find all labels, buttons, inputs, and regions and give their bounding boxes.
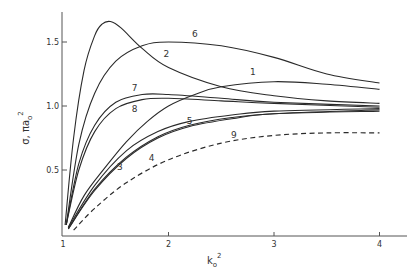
chart: 12340.51.01.5 123456789 ko2 σ, πao2 bbox=[0, 0, 420, 278]
curve-4 bbox=[68, 111, 379, 229]
curve-label-5: 5 bbox=[187, 116, 193, 126]
curve-7 bbox=[66, 94, 379, 225]
curve-8 bbox=[66, 98, 379, 225]
curve-6 bbox=[66, 42, 379, 225]
y-axis-title-base: σ, πa bbox=[20, 120, 31, 145]
x-tick-label: 4 bbox=[377, 240, 382, 249]
x-axis-title-superscript: 2 bbox=[217, 252, 221, 260]
curve-label-6: 6 bbox=[192, 29, 198, 39]
curve-9 bbox=[74, 133, 380, 230]
curve-label-7: 7 bbox=[132, 83, 138, 93]
x-tick-label: 1 bbox=[60, 240, 65, 249]
y-tick-label: 1.5 bbox=[46, 38, 59, 47]
y-tick-label: 0.5 bbox=[46, 166, 59, 175]
y-axis-title-subscript: o bbox=[26, 116, 34, 120]
curve-label-8: 8 bbox=[132, 104, 138, 114]
axes bbox=[62, 12, 407, 236]
x-tick-label: 2 bbox=[166, 240, 171, 249]
curve-2 bbox=[65, 21, 379, 225]
y-tick-label: 1.0 bbox=[46, 102, 59, 111]
curve-3 bbox=[68, 110, 379, 229]
y-axis-title: σ, πao2 bbox=[17, 111, 34, 145]
x-axis-title-subscript: o bbox=[213, 261, 217, 269]
y-axis-title-superscript: 2 bbox=[17, 111, 25, 115]
curve-label-4: 4 bbox=[149, 153, 155, 163]
curve-label-3: 3 bbox=[117, 162, 123, 172]
ticks: 12340.51.01.5 bbox=[46, 38, 382, 249]
curves bbox=[65, 21, 379, 230]
curve-label-9: 9 bbox=[231, 130, 237, 140]
curve-1 bbox=[68, 82, 379, 228]
curve-label-2: 2 bbox=[164, 49, 170, 59]
x-axis-title: ko2 bbox=[207, 252, 222, 269]
x-tick-label: 3 bbox=[271, 240, 276, 249]
curve-label-1: 1 bbox=[250, 67, 256, 77]
